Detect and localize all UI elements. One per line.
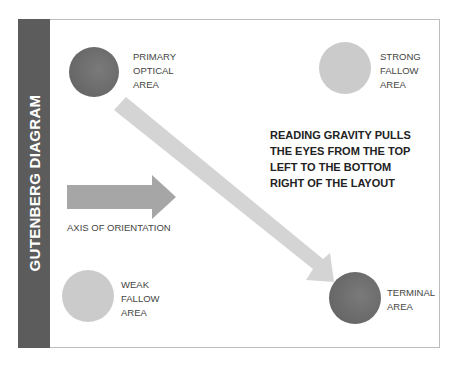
terminal-label: TERMINAL AREA — [387, 286, 435, 314]
axis-orientation-arrow — [67, 175, 176, 219]
label-line: TERMINAL — [387, 286, 435, 300]
label-line: PRIMARY — [133, 50, 176, 64]
strong-fallow-circle — [319, 42, 371, 94]
label-line: AREA — [121, 306, 160, 320]
label-line: STRONG — [380, 50, 421, 64]
primary-optical-circle — [69, 47, 119, 97]
terminal-circle — [329, 272, 381, 324]
text-line: READING GRAVITY PULLS — [270, 127, 411, 143]
label-line: WEAK — [121, 278, 160, 292]
label-line: AREA — [133, 78, 176, 92]
label-line: AREA — [387, 300, 435, 314]
label-line: OPTICAL — [133, 64, 176, 78]
strong-fallow-label: STRONG FALLOW AREA — [380, 50, 421, 92]
axis-orientation-label: AXIS OF ORIENTATION — [67, 221, 171, 235]
primary-optical-label: PRIMARY OPTICAL AREA — [133, 50, 176, 92]
label-line: FALLOW — [380, 64, 421, 78]
label-line: FALLOW — [121, 292, 160, 306]
reading-gravity-text: READING GRAVITY PULLS THE EYES FROM THE … — [270, 127, 411, 191]
weak-fallow-label: WEAK FALLOW AREA — [121, 278, 160, 320]
text-line: RIGHT OF THE LAYOUT — [270, 175, 411, 191]
label-line: AREA — [380, 78, 421, 92]
weak-fallow-circle — [62, 270, 114, 322]
text-line: LEFT TO THE BOTTOM — [270, 159, 411, 175]
text-line: THE EYES FROM THE TOP — [270, 143, 411, 159]
